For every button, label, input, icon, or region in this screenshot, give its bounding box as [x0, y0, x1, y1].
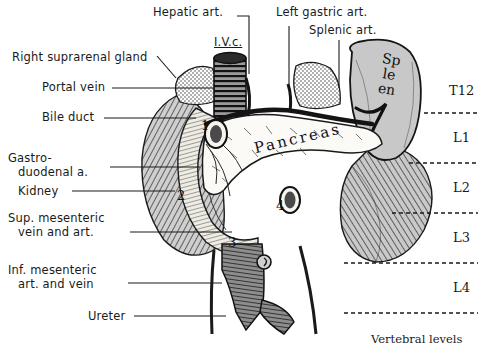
vertebral-level-t12: T12	[449, 83, 474, 98]
label-inf-mesenteric-line1: Inf. mesenteric	[8, 264, 97, 277]
leader-right-suprarenal-gland	[157, 56, 176, 78]
label-right-suprarenal-gland: Right suprarenal gland	[12, 51, 148, 64]
label-gastroduodenal-a-line1: Gastro-	[8, 152, 52, 165]
right-suprarenal-gland	[175, 66, 218, 104]
label-ivc: I.V.c.	[214, 36, 242, 49]
label-splenic-art: Splenic art.	[309, 24, 377, 37]
aorta-and-iliac-vessels	[222, 244, 294, 334]
vertebral-levels-caption: Vertebral levels	[371, 332, 462, 346]
label-kidney: Kidney	[18, 185, 58, 198]
vertebral-level-l2: L2	[453, 180, 470, 195]
vertebral-level-l4: L4	[453, 280, 470, 295]
label-inf-mesenteric-line2: art. and vein	[18, 278, 94, 291]
label-spleen: Spleen	[379, 52, 399, 97]
label-gastroduodenal-a-line2: duodenal a.	[18, 166, 88, 179]
marker-4: 4	[276, 198, 284, 213]
label-bile-duct: Bile duct	[42, 111, 94, 124]
left-kidney	[340, 147, 432, 262]
marker-2: 2	[177, 188, 185, 203]
label-pancreas-text: Pancreas	[252, 120, 343, 158]
vertebral-level-l1: L1	[453, 130, 470, 145]
label-hepatic-art: Hepatic art.	[153, 6, 223, 19]
label-spleen-text: Spleen	[376, 51, 403, 99]
marker-1: 1	[201, 118, 209, 133]
label-ureter: Ureter	[88, 310, 125, 323]
vertebral-level-l3: L3	[453, 230, 470, 245]
anatomical-figure: Right suprarenal gland Portal vein Bile …	[0, 0, 482, 355]
marker-3: 3	[228, 235, 236, 250]
label-sup-mesenteric-line1: Sup. mesenteric	[8, 212, 105, 225]
label-left-gastric-art: Left gastric art.	[276, 6, 367, 19]
label-portal-vein: Portal vein	[42, 81, 105, 94]
label-sup-mesenteric-line2: vein and art.	[18, 226, 94, 239]
